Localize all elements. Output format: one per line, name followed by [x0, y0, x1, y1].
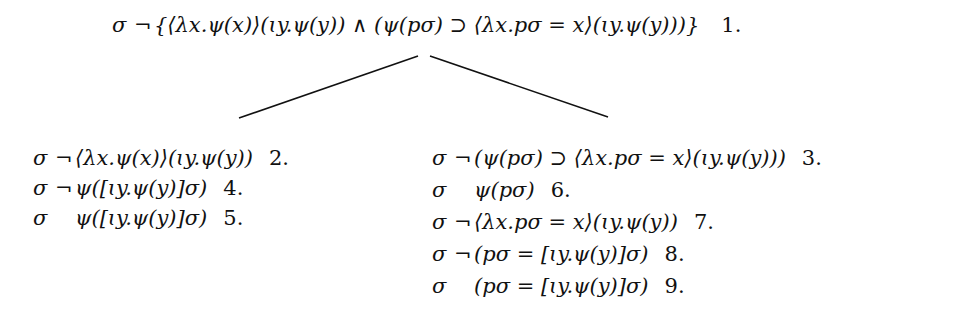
- line-number: 8.: [665, 241, 685, 267]
- line-number: 5.: [223, 205, 243, 231]
- left-branch-line-4: σ¬ψ([ɩy.ψ(y)]σ)4.: [33, 175, 243, 201]
- line-number: 4.: [223, 175, 243, 201]
- left-branch-line-2: σ¬⟨λx.ψ(x)⟩(ɩy.ψ(y))2.: [33, 145, 289, 171]
- formula-text: ψ([ɩy.ψ(y)]σ): [75, 175, 207, 201]
- negation-symbol: ¬: [134, 12, 154, 38]
- right-branch-line-7: σ¬⟨λx.pσ = x⟩(ɩy.ψ(y))7.: [432, 209, 714, 235]
- right-branch-line-3: σ¬(ψ(pσ) ⊃ ⟨λx.pσ = x⟩(ɩy.ψ(y)))3.: [432, 145, 822, 171]
- formula-text: (ψ(pσ) ⊃ ⟨λx.pσ = x⟩(ɩy.ψ(y))): [474, 145, 786, 171]
- negation-symbol: ¬: [55, 175, 75, 201]
- line-number: 2.: [269, 145, 289, 171]
- negation-symbol: ¬: [454, 209, 474, 235]
- line-number: 1.: [721, 12, 741, 38]
- negation-symbol: ¬: [454, 145, 474, 171]
- sign-label: σ: [432, 177, 454, 203]
- sign-label: σ: [33, 175, 55, 201]
- formula-text: ⟨λx.ψ(x)⟩(ɩy.ψ(y)): [75, 145, 253, 171]
- sign-label: σ: [33, 145, 55, 171]
- formula-text: {⟨λx.ψ(x)⟩(ɩy.ψ(y)) ∧ (ψ(pσ) ⊃ ⟨λx.pσ = …: [154, 12, 699, 38]
- right-branch-line-6: σψ(pσ)6.: [432, 177, 571, 203]
- right-branch-line-8: σ¬(pσ = [ɩy.ψ(y)]σ)8.: [432, 241, 685, 267]
- formula-text: ⟨λx.pσ = x⟩(ɩy.ψ(y)): [474, 209, 678, 235]
- sign-label: σ: [432, 241, 454, 267]
- sign-label: σ: [112, 12, 134, 38]
- line-number: 3.: [802, 145, 822, 171]
- negation-symbol: ¬: [454, 241, 474, 267]
- line-number: 7.: [694, 209, 714, 235]
- left-branch-line: [239, 56, 418, 118]
- formula-text: (pσ = [ɩy.ψ(y)]σ): [474, 241, 649, 267]
- formula-text: ψ([ɩy.ψ(y)]σ): [75, 205, 207, 231]
- sign-label: σ: [432, 209, 454, 235]
- root-formula-line: σ¬{⟨λx.ψ(x)⟩(ɩy.ψ(y)) ∧ (ψ(pσ) ⊃ ⟨λx.pσ …: [112, 12, 741, 38]
- formula-text: (pσ = [ɩy.ψ(y)]σ): [474, 273, 649, 299]
- sign-label: σ: [432, 145, 454, 171]
- right-branch-line: [430, 56, 608, 117]
- sign-label: σ: [432, 273, 454, 299]
- sign-label: σ: [33, 205, 55, 231]
- line-number: 6.: [551, 177, 571, 203]
- left-branch-line-5: σψ([ɩy.ψ(y)]σ)5.: [33, 205, 243, 231]
- line-number: 9.: [665, 273, 685, 299]
- negation-symbol: ¬: [55, 145, 75, 171]
- right-branch-line-9: σ(pσ = [ɩy.ψ(y)]σ)9.: [432, 273, 685, 299]
- formula-text: ψ(pσ): [474, 177, 535, 203]
